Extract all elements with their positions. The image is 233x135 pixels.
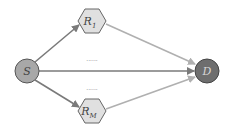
node-relay-m-sub: M [89, 112, 98, 120]
edge-s-rm [35, 80, 79, 107]
node-destination-label: D [202, 65, 212, 78]
edge-r1-d [106, 24, 195, 64]
node-destination: D [195, 59, 219, 83]
node-relay-1-label: R [83, 15, 92, 28]
node-relay-m: RM [78, 99, 106, 123]
edge-s-r1 [35, 25, 79, 62]
ellipsis-top: ...... [86, 55, 98, 62]
ellipsis-bottom: ...... [86, 84, 98, 91]
edge-rm-d [106, 77, 195, 109]
node-relay-m-label: R [80, 105, 89, 118]
node-source: S [15, 59, 39, 83]
node-source-label: S [23, 65, 31, 78]
node-relay-1-sub: 1 [92, 22, 96, 30]
node-relay-1: R1 [78, 9, 106, 33]
relay-diagram: ...... ...... S R1 RM D [0, 0, 233, 135]
